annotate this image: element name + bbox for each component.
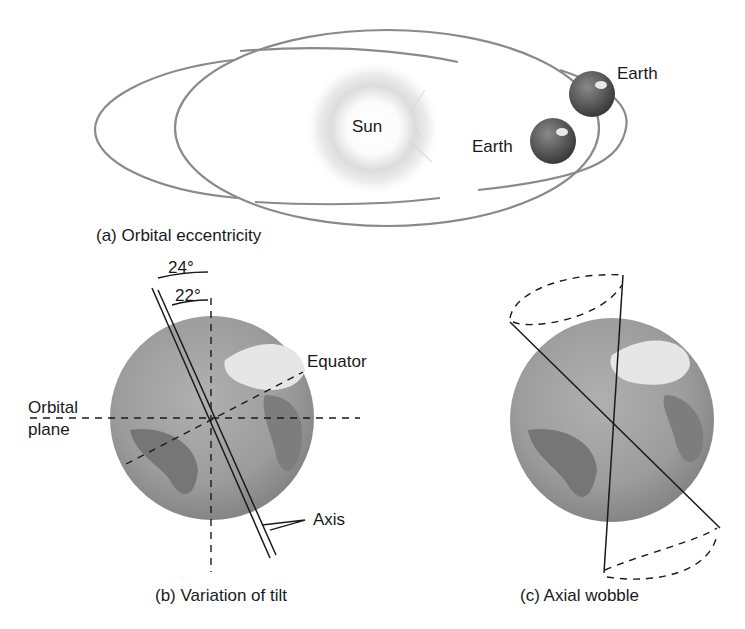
panel-variation-of-tilt <box>30 272 360 572</box>
panel-axial-wobble <box>510 275 720 579</box>
earth-label-inner: Earth <box>472 137 513 157</box>
precession-cone-bottom <box>605 528 717 579</box>
orbital-plane-label-1: Orbital <box>28 398 78 418</box>
earth-icon-outer <box>569 71 615 117</box>
caption-variation-of-tilt: (b) Variation of tilt <box>155 586 287 606</box>
caption-axial-wobble: (c) Axial wobble <box>520 586 639 606</box>
orbit-arc-bottom <box>255 198 440 204</box>
axis-leader <box>262 520 305 530</box>
earth-icon-inner <box>530 118 576 164</box>
precession-cone-top <box>510 275 623 325</box>
angle-label-24: 24° <box>168 258 194 278</box>
sun-label: Sun <box>352 117 382 137</box>
orbit-arc-top <box>240 48 458 62</box>
angle-label-22: 22° <box>175 286 201 306</box>
milankovitch-diagram <box>0 0 745 629</box>
axis-label: Axis <box>313 510 345 530</box>
orbital-plane-label-2: plane <box>28 420 70 440</box>
elongated-orbit <box>95 60 237 198</box>
equator-label: Equator <box>307 352 367 372</box>
earth-label-outer: Earth <box>617 64 658 84</box>
caption-orbital-eccentricity: (a) Orbital eccentricity <box>96 226 261 246</box>
